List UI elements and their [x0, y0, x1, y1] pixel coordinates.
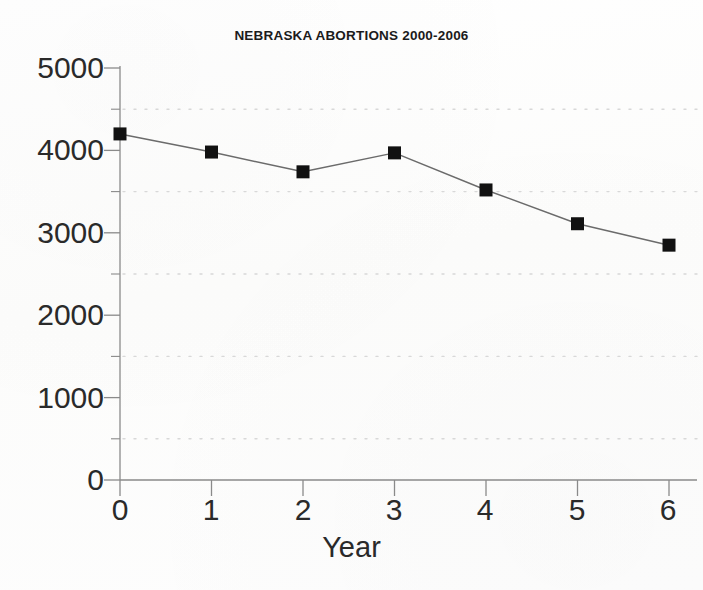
axis-lines	[120, 66, 697, 480]
axis-ticks	[104, 68, 669, 496]
chart-screenshot: NEBRASKA ABORTIONS 2000-2006 5000 4000 3…	[0, 0, 703, 590]
data-point-markers	[114, 127, 676, 251]
plot-area	[0, 0, 703, 590]
